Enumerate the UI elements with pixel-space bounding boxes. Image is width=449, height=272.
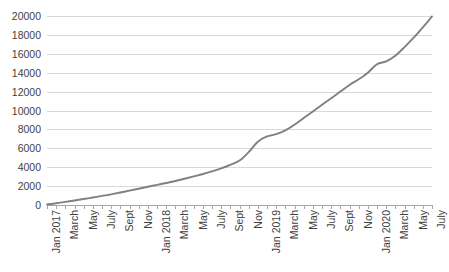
y-tick-label: 14000 xyxy=(12,67,41,78)
x-tick-label: Nov xyxy=(363,209,374,228)
x-tick-label: March xyxy=(69,209,80,238)
x-tick-label: May xyxy=(418,209,429,229)
x-tick-label-text: Jan 2019 xyxy=(271,210,282,253)
x-tick-label-text: July xyxy=(106,210,117,229)
x-tick-label: Jan 2018 xyxy=(161,209,172,252)
x-tick-mark xyxy=(432,205,433,209)
x-tick-label: March xyxy=(399,209,410,238)
x-tick-label: Sept xyxy=(234,209,245,231)
x-tick-label: Jan 2019 xyxy=(271,209,282,252)
x-tick-label-text: March xyxy=(289,210,300,239)
x-tick-label: July xyxy=(436,209,447,228)
y-tick-label: 0 xyxy=(35,200,41,211)
y-axis: 0200040006000800010000120001400016000180… xyxy=(0,0,44,272)
x-tick-label-text: Jan 2018 xyxy=(161,210,172,253)
x-tick-label-text: March xyxy=(399,210,410,239)
x-tick-label: March xyxy=(179,209,190,238)
y-tick-label: 18000 xyxy=(12,30,41,41)
x-tick-label: May xyxy=(198,209,209,229)
x-tick-label-text: May xyxy=(418,210,429,230)
x-tick-label-text: March xyxy=(179,210,190,239)
x-tick-label-text: July xyxy=(326,210,337,229)
y-tick-label: 10000 xyxy=(12,105,41,116)
series-path xyxy=(47,16,432,204)
x-tick-label-text: May xyxy=(88,210,99,230)
plot-area xyxy=(47,16,432,205)
y-tick-label: 20000 xyxy=(12,11,41,22)
x-tick-label-text: March xyxy=(69,210,80,239)
y-tick-label: 2000 xyxy=(18,181,41,192)
x-tick-label-text: May xyxy=(198,210,209,230)
x-tick-label: May xyxy=(308,209,319,229)
x-tick-label-text: Sept xyxy=(234,210,245,232)
line-chart: 0200040006000800010000120001400016000180… xyxy=(0,0,449,272)
x-tick-label-text: Jan 2017 xyxy=(51,210,62,253)
x-tick-label: Sept xyxy=(344,209,355,231)
x-axis: Jan 2017MarchMayJulySeptNovJan 2018March… xyxy=(47,209,432,271)
x-tick-label-text: May xyxy=(308,210,319,230)
y-tick-label: 8000 xyxy=(18,124,41,135)
x-tick-label: Nov xyxy=(253,209,264,228)
x-tick-label-text: Jan 2020 xyxy=(381,210,392,253)
x-tick-label: Jan 2020 xyxy=(381,209,392,252)
x-tick-label: July xyxy=(216,209,227,228)
x-tick-label-text: July xyxy=(436,210,447,229)
y-tick-label: 6000 xyxy=(18,143,41,154)
x-tick-label: Sept xyxy=(124,209,135,231)
x-tick-label: Nov xyxy=(143,209,154,228)
x-tick-label-text: Sept xyxy=(124,210,135,232)
y-tick-label: 4000 xyxy=(18,162,41,173)
y-tick-label: 12000 xyxy=(12,86,41,97)
x-tick-label: July xyxy=(326,209,337,228)
x-tick-label-text: Nov xyxy=(363,210,374,229)
y-tick-label: 16000 xyxy=(12,49,41,60)
x-tick-label: March xyxy=(289,209,300,238)
x-tick-label: Jan 2017 xyxy=(51,209,62,252)
x-tick-label-text: July xyxy=(216,210,227,229)
x-tick-label: July xyxy=(106,209,117,228)
x-tick-label-text: Sept xyxy=(344,210,355,232)
x-tick-label: May xyxy=(88,209,99,229)
x-tick-label-text: Nov xyxy=(253,210,264,229)
x-tick-label-text: Nov xyxy=(143,210,154,229)
data-series-line xyxy=(47,16,432,205)
